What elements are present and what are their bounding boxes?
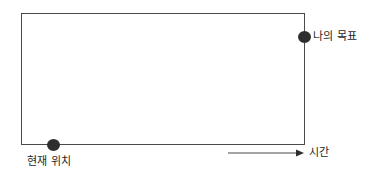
time-axis-arrow-icon	[228, 147, 304, 159]
time-axis-label: 시간	[309, 146, 329, 159]
gap-rectangle	[21, 13, 305, 145]
current-position-label: 현재 위치	[27, 155, 72, 168]
goal-marker-icon	[298, 31, 311, 43]
goal-label: 나의 목표	[313, 30, 358, 43]
diagram-canvas: 나의 목표 현재 위치 시간	[0, 0, 386, 181]
current-position-marker-icon	[47, 139, 60, 151]
